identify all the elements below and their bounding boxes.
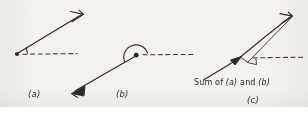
panel-c-reference-line [253, 57, 304, 58]
panel-c-component-vector [248, 19, 291, 63]
sum-label-conjunction: and [237, 78, 258, 87]
sum-label-vector-b: (b) [258, 78, 270, 87]
panel-caption-c: (c) [247, 95, 259, 105]
panel-a-vector-shaft [19, 15, 81, 53]
panel-b-graphics [72, 45, 195, 98]
panel-b-vector-shaft [75, 57, 135, 92]
panel-c-graphics [204, 12, 305, 80]
panel-caption-b: (b) [116, 89, 129, 99]
sum-annotation-label: Sum of (a) and (b) [194, 78, 270, 87]
figure-canvas [0, 0, 308, 113]
bottom-edge-strip [0, 107, 308, 113]
panel-c-leader-arrowhead [231, 56, 242, 65]
sum-label-vector-a: (a) [226, 78, 238, 87]
panel-caption-a: (a) [28, 89, 40, 99]
panel-a-graphics [15, 10, 84, 56]
vector-addition-figure: (a) (b) (c) Sum of (a) and (b) [0, 0, 308, 113]
sum-label-prefix: Sum of [194, 78, 226, 87]
panel-c-origin-connector [241, 57, 248, 62]
panel-a-reference-line [23, 54, 77, 55]
